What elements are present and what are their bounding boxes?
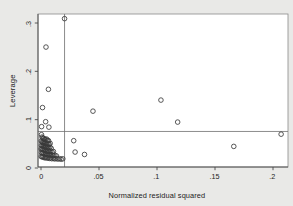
y-tick-label: .1 <box>24 117 33 123</box>
y-tick-label: 0 <box>24 166 33 170</box>
y-axis-title: Leverage <box>8 74 17 106</box>
x-tick-label: .1 <box>153 172 159 181</box>
y-tick-label: .3 <box>24 21 33 27</box>
plot-canvas <box>0 0 293 206</box>
plot-region <box>38 14 288 167</box>
x-tick-label: .05 <box>93 172 103 181</box>
x-axis-title: Normalized residual squared <box>109 191 206 200</box>
y-tick-label: .2 <box>24 69 33 75</box>
lvr2plot-figure: Leverage Normalized residual squared 0.0… <box>0 0 293 206</box>
x-tick-label: .2 <box>269 172 275 181</box>
x-tick-label: 0 <box>39 172 43 181</box>
x-tick-label: .15 <box>209 172 219 181</box>
